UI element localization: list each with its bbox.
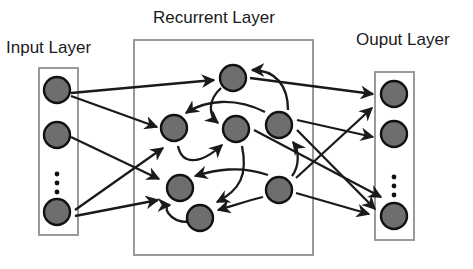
recurrent-node-g	[187, 205, 213, 231]
output-node-1	[381, 81, 407, 107]
input-node-2	[44, 122, 70, 148]
edge-f-e	[195, 169, 268, 176]
input-node-1	[44, 77, 70, 103]
output-ellipsis	[392, 175, 397, 198]
edge-g-e	[167, 205, 188, 222]
recurrent-node-f	[266, 177, 292, 203]
edge-in2-e	[71, 137, 159, 179]
edge-c-g	[217, 146, 244, 202]
edge-a-out1	[250, 78, 373, 94]
edge-a-c	[211, 88, 221, 123]
input-node-n	[44, 199, 70, 225]
recurrent-node-b	[161, 115, 187, 141]
edge-f-g	[218, 197, 263, 210]
output-node-2	[381, 121, 407, 147]
edge-d-a	[252, 70, 288, 110]
recurrent-node-a	[220, 65, 246, 91]
recurrent-node-c	[223, 116, 249, 142]
edge-d-b	[186, 102, 265, 113]
edge-in1-b	[71, 96, 157, 127]
input-ellipsis	[55, 172, 60, 195]
rnn-diagram	[0, 0, 473, 269]
edge-in1-a	[71, 80, 214, 93]
edge-f-out3	[296, 193, 369, 214]
output-node-n	[381, 203, 407, 229]
recurrent-node-d	[266, 112, 292, 138]
edge-f-d	[292, 142, 298, 176]
edge-d-out2	[297, 120, 373, 137]
recurrent-node-e	[167, 175, 193, 201]
edge-b-c	[178, 145, 222, 160]
edges	[71, 70, 381, 222]
